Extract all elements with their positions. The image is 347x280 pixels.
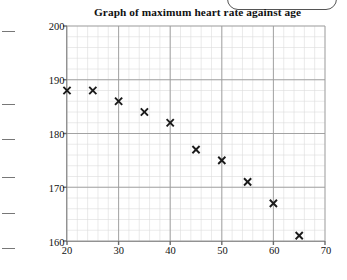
page-edge-mark xyxy=(2,139,15,140)
page-edge-mark xyxy=(2,213,15,214)
x-tick-label: 40 xyxy=(158,245,184,256)
chart-figure: Graph of maximum heart rate against age … xyxy=(0,0,347,280)
page-edge-mark xyxy=(2,31,15,32)
page-edge-mark xyxy=(2,104,15,105)
chart-title: Graph of maximum heart rate against age xyxy=(55,6,340,18)
y-tick-label: 200 xyxy=(30,21,64,32)
y-tick-label: 180 xyxy=(30,129,64,140)
x-tick-label: 70 xyxy=(313,245,339,256)
x-tick-label: 50 xyxy=(209,245,235,256)
y-tick-label: 170 xyxy=(30,183,64,194)
y-tick-label: 190 xyxy=(30,75,64,86)
page-edge-mark xyxy=(2,248,15,249)
x-tick-label: 30 xyxy=(106,245,132,256)
page-edge-mark xyxy=(2,177,15,178)
data-points xyxy=(67,26,325,241)
x-tick-label: 60 xyxy=(261,245,287,256)
x-tick-label: 20 xyxy=(54,245,80,256)
plot-area: 160170180190200 203040506070 Maximum hea… xyxy=(66,26,325,242)
